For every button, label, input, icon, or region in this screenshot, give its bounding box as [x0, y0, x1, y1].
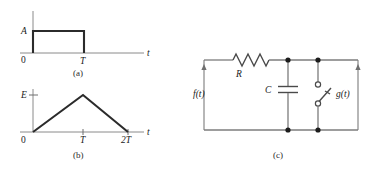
node-dot-bottom-switch	[315, 127, 320, 132]
output-signal-label: g(t)	[336, 89, 350, 100]
panel-b-waveform	[33, 95, 128, 132]
figure-svg: A 0 T t (a) E 0 T 2T t (b) R C f(t) g(t)…	[0, 0, 372, 172]
switch-blade-icon	[319, 88, 331, 102]
node-dot-top-capacitor	[285, 57, 290, 62]
panel-c-caption: (c)	[273, 150, 283, 160]
figure-container: A 0 T t (a) E 0 T 2T t (b) R C f(t) g(t)…	[0, 0, 372, 172]
input-arrow-icon	[201, 64, 206, 70]
input-signal-label: f(t)	[193, 89, 205, 100]
panel-a-waveform	[33, 31, 84, 53]
node-dot-bottom-capacitor	[285, 127, 290, 132]
panel-b-caption: (b)	[73, 150, 84, 160]
panel-b-x-axis-label: t	[147, 127, 150, 137]
panel-b-y-label: E	[20, 90, 27, 100]
resistor-symbol	[233, 54, 269, 66]
panel-b-x-tick-label-1: T	[80, 135, 86, 145]
panel-a-x-axis-label: t	[147, 48, 150, 58]
panel-a-y-label: A	[20, 26, 27, 36]
panel-b-plot	[20, 89, 144, 135]
output-arrow-icon	[355, 64, 360, 70]
capacitor-label: C	[265, 85, 272, 95]
panel-a-caption: (a)	[73, 68, 83, 78]
panel-a-x-tick-label: T	[80, 56, 86, 66]
panel-b-x-tick-label-2: 2T	[121, 135, 132, 145]
resistor-label: R	[235, 69, 242, 79]
panel-a-plot	[20, 11, 144, 53]
panel-b-origin-label: 0	[21, 135, 26, 145]
panel-a-origin-label: 0	[21, 55, 26, 65]
switch-terminal-bottom-icon	[315, 101, 320, 106]
node-dot-top-switch	[315, 57, 320, 62]
switch-terminal-top-icon	[315, 82, 320, 87]
